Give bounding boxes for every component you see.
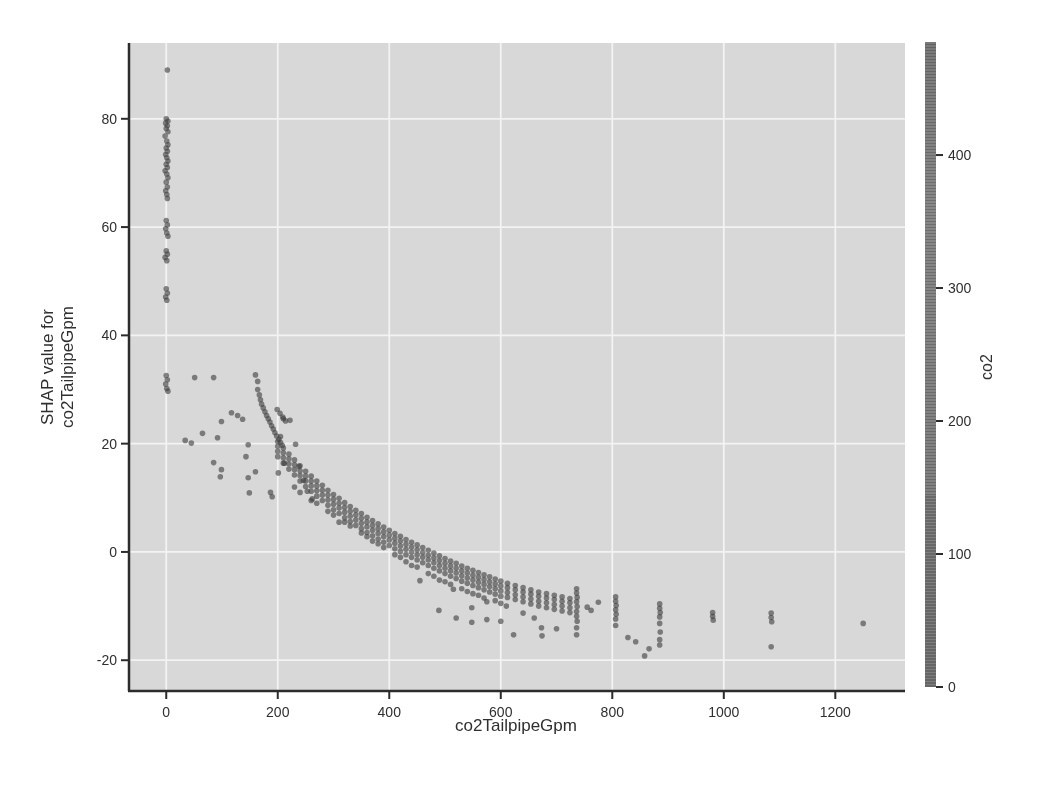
scatter-point	[520, 589, 526, 595]
scatter-point	[165, 196, 171, 202]
scatter-point	[437, 563, 443, 569]
scatter-point	[314, 483, 320, 489]
scatter-point	[476, 585, 482, 591]
scatter-point	[325, 497, 331, 503]
scatter-point	[275, 454, 281, 460]
scatter-point	[392, 540, 398, 546]
scatter-point	[437, 558, 443, 564]
scatter-point	[505, 585, 511, 591]
scatter-point	[283, 418, 289, 424]
scatter-point	[398, 555, 404, 561]
scatter-point	[353, 517, 359, 523]
scatter-point	[633, 639, 639, 645]
scatter-point	[281, 455, 287, 461]
colorbar-tick-label: 300	[948, 280, 972, 296]
scatter-point	[308, 478, 314, 484]
scatter-point	[559, 608, 565, 614]
scatter-point	[292, 467, 298, 473]
scatter-point	[470, 568, 476, 574]
scatter-point	[492, 581, 498, 587]
scatter-point	[269, 494, 275, 500]
scatter-point	[459, 578, 465, 584]
x-tick-label: 1200	[820, 704, 851, 720]
scatter-point	[484, 617, 490, 623]
plot-background	[130, 43, 905, 690]
scatter-point	[536, 594, 542, 600]
scatter-point	[442, 565, 448, 571]
y-tick-label: 40	[101, 327, 117, 343]
scatter-point	[275, 448, 281, 454]
scatter-point	[498, 588, 504, 594]
scatter-point	[392, 546, 398, 552]
scatter-point	[292, 457, 298, 463]
scatter-point	[275, 439, 281, 445]
scatter-point	[425, 548, 431, 554]
scatter-point	[163, 179, 169, 185]
scatter-point	[465, 581, 471, 587]
scatter-point	[281, 450, 287, 456]
scatter-point	[425, 571, 431, 577]
scatter-point	[325, 487, 331, 493]
scatter-point	[613, 616, 619, 622]
scatter-point	[710, 617, 716, 623]
scatter-point	[392, 552, 398, 558]
scatter-point	[364, 519, 370, 525]
scatter-point	[657, 629, 663, 635]
scatter-point	[165, 388, 171, 394]
scatter-point	[381, 539, 387, 545]
scatter-point	[528, 596, 534, 602]
scatter-point	[409, 555, 415, 561]
scatter-point	[613, 611, 619, 617]
colorbar-tick-label: 400	[948, 147, 972, 163]
scatter-point	[325, 492, 331, 498]
scatter-point	[642, 653, 648, 659]
scatter-point	[381, 545, 387, 551]
x-tick-label: 1000	[708, 704, 739, 720]
scatter-point	[448, 563, 454, 569]
scatter-point	[247, 490, 253, 496]
scatter-point	[414, 564, 420, 570]
scatter-point	[398, 538, 404, 544]
scatter-point	[325, 503, 331, 509]
scatter-point	[364, 534, 370, 540]
shap-dependence-figure: 020040060080010001200-200204060800100200…	[0, 0, 1044, 792]
scatter-point	[403, 559, 409, 565]
scatter-point	[431, 555, 437, 561]
scatter-point	[292, 472, 298, 478]
scatter-point	[567, 605, 573, 611]
y-tick-label: 80	[101, 111, 117, 127]
scatter-point	[359, 511, 365, 517]
scatter-point	[453, 570, 459, 576]
scatter-point	[320, 487, 326, 493]
scatter-point	[492, 598, 498, 604]
scatter-point	[613, 623, 619, 629]
scatter-point	[257, 392, 263, 398]
scatter-point	[286, 456, 292, 462]
scatter-point	[596, 599, 602, 605]
scatter-point	[286, 466, 292, 472]
scatter-point	[211, 460, 217, 466]
scatter-point	[476, 592, 482, 598]
scatter-point	[403, 537, 409, 543]
scatter-point	[164, 258, 170, 264]
scatter-point	[359, 516, 365, 522]
scatter-point	[414, 542, 420, 548]
scatter-point	[520, 594, 526, 600]
scatter-point	[520, 599, 526, 605]
scatter-point	[442, 571, 448, 577]
scatter-point	[303, 484, 309, 490]
x-tick-label: 200	[266, 704, 290, 720]
scatter-point	[403, 542, 409, 548]
scatter-point	[215, 435, 221, 441]
scatter-point	[243, 454, 249, 460]
scatter-point	[646, 646, 652, 652]
scatter-point	[398, 533, 404, 539]
scatter-point	[481, 587, 487, 593]
scatter-point	[484, 599, 490, 605]
scatter-point	[320, 483, 326, 489]
scatter-point	[574, 609, 580, 615]
scatter-point	[544, 605, 550, 611]
scatter-point	[375, 531, 381, 537]
scatter-point	[420, 550, 426, 556]
scatter-point	[625, 635, 631, 641]
